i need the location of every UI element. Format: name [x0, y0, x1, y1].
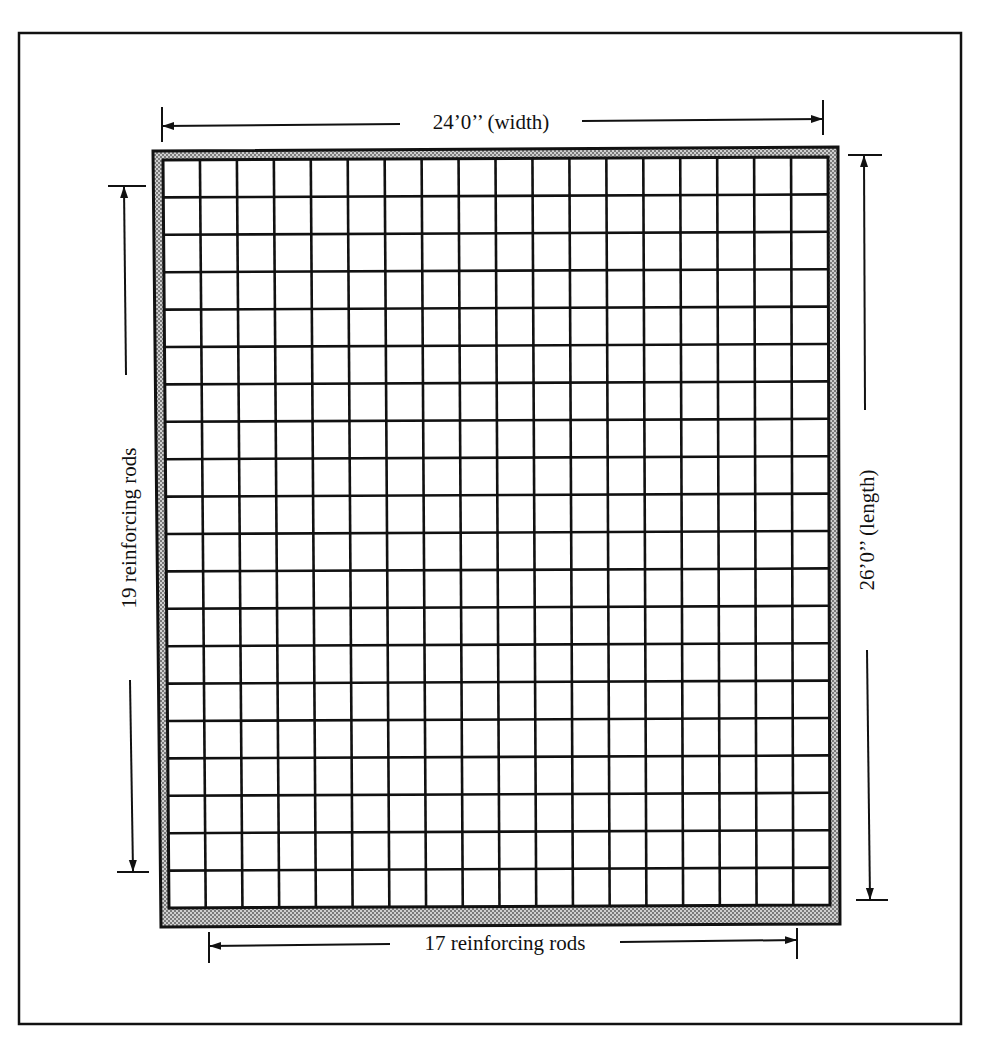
rods-left-arrow-bottom — [130, 680, 133, 871]
length-label: 26’0’’ (length) — [855, 469, 879, 590]
vertical-rods-dimension: 17 reinforcing rods — [209, 928, 797, 963]
length-arrow-bottom — [867, 650, 870, 899]
horizontal-rods-dimension: 19 reinforcing rods — [108, 186, 149, 872]
slab — [153, 147, 840, 927]
horizontal-rods-label: 19 reinforcing rods — [117, 448, 141, 609]
length-arrow-top — [864, 156, 865, 410]
rods-left-arrow-top — [124, 187, 126, 375]
vertical-rods-label: 17 reinforcing rods — [425, 931, 586, 955]
width-label: 24’0’’ (width) — [433, 110, 549, 134]
width-dimension: 24’0’’ (width) — [162, 100, 823, 142]
length-dimension: 26’0’’ (length) — [848, 155, 888, 900]
width-arrow-left — [163, 124, 400, 126]
reinforcing-rod-diagram: 24’0’’ (width) 26’0’’ (length) 19 reinfo… — [0, 0, 984, 1048]
width-arrow-right — [582, 119, 822, 121]
rods-bottom-arrow-right — [620, 940, 796, 942]
rods-bottom-arrow-left — [210, 944, 390, 946]
